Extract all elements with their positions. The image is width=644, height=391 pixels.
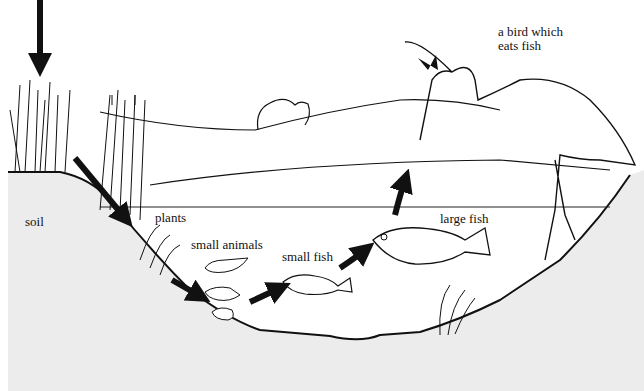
label-small-fish: small fish (282, 250, 333, 264)
label-small-animals: small animals (191, 238, 263, 252)
pond-food-chain-diagram: soil plants small animals small fish lar… (0, 0, 644, 391)
label-soil: soil (25, 215, 44, 229)
label-bird-line1: a bird which (498, 25, 563, 39)
label-plants: plants (155, 211, 186, 225)
label-large-fish: large fish (440, 212, 489, 226)
bush (258, 99, 310, 130)
heron-crest (418, 55, 438, 70)
label-bird-line2: eats fish (498, 39, 541, 53)
hills (100, 100, 610, 185)
diagram-canvas (0, 0, 644, 391)
